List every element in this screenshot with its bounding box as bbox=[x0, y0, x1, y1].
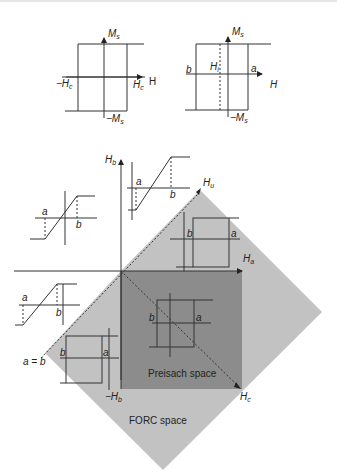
inset-ramp-left: a b bbox=[15, 284, 80, 325]
a-label: a bbox=[196, 312, 202, 323]
top-left-hysteresis-loop: Ms H −Hc Hc −Ms bbox=[56, 28, 156, 125]
a-label: a bbox=[42, 206, 48, 217]
hi-label: Hi bbox=[210, 61, 219, 73]
b-label: b bbox=[170, 189, 176, 200]
b-label: b bbox=[186, 64, 192, 75]
hc-label: Hc bbox=[133, 79, 144, 91]
b-label: b bbox=[187, 228, 193, 239]
hu-axis-label: Hu bbox=[203, 177, 214, 189]
ms-label: Ms bbox=[232, 26, 244, 38]
hb-axis-label: Hb bbox=[105, 154, 116, 166]
ms-label: Ms bbox=[108, 28, 120, 40]
a-equals-b-label: a = b bbox=[23, 356, 46, 367]
a-label: a bbox=[22, 292, 28, 303]
neg-ms-label: −Ms bbox=[106, 113, 124, 125]
hysteresis-diagram: Ms H −Hc Hc −Ms Ms H Hi b a −Ms Hb Ha Hu… bbox=[0, 0, 337, 475]
top-right-hysteresis-loop: Ms H Hi b a −Ms bbox=[185, 26, 278, 124]
hc-axis-label: Hc bbox=[240, 391, 251, 403]
h-label: H bbox=[149, 76, 156, 87]
h-label: H bbox=[270, 79, 278, 90]
b-label: b bbox=[56, 307, 62, 318]
a-label: a bbox=[231, 228, 237, 239]
b-label: b bbox=[76, 219, 82, 230]
b-label: b bbox=[149, 312, 155, 323]
neg-hc-label: −Hc bbox=[56, 78, 73, 90]
preisach-space-label: Preisach space bbox=[148, 368, 217, 379]
a-label: a bbox=[103, 347, 109, 358]
a-label: a bbox=[136, 176, 142, 187]
neg-ms-label: −Ms bbox=[230, 112, 248, 124]
b-label: b bbox=[60, 347, 66, 358]
a-label: a bbox=[251, 63, 257, 74]
inset-ramp-upper-left: a b bbox=[30, 191, 97, 245]
forc-space-label: FORC space bbox=[129, 415, 187, 426]
